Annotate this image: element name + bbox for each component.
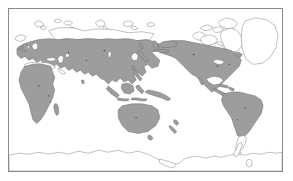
cuba-range [218,84,228,88]
range-speck-na-1 [193,54,195,56]
south-america-range [221,92,263,137]
aleutian-islands-range [154,50,169,53]
range-speck-asia-3 [68,52,69,53]
greenland-outline [241,18,278,64]
range-speck-sa-2 [237,119,238,120]
range-speck-asia-1 [104,50,106,52]
new-siberian-islands-outline [123,21,138,30]
africa-range [19,64,55,123]
range-speck-asia-2 [86,60,87,61]
persian-gulf-detail [59,68,66,74]
wrangel-island-outline [147,23,155,27]
africa-range-group [19,64,59,123]
range-speck-na-3 [229,64,230,65]
java-range [117,98,129,101]
sulawesi-range [136,85,144,94]
antarctica-group [9,142,282,171]
antarctic-interior-lake-outline [246,159,252,167]
new-zealand-south-range [169,126,177,134]
range-speck-sa-1 [245,107,246,108]
distribution-map-figure [0,0,293,181]
black-sea-detail [47,57,56,61]
range-speck-africa-1 [38,85,40,87]
iceland-outline [15,35,26,42]
range-speck-na-2 [217,66,218,67]
new-zealand-north-range [174,120,179,126]
sumatra-range [106,86,119,98]
lesser-sunda-range [131,98,147,101]
new-guinea-range [145,90,171,101]
world-map-svg [9,9,282,171]
franz-josef-outline [55,19,62,23]
range-speck-africa-2 [48,95,49,96]
tasmania-range [148,135,153,140]
range-speck-africa-3 [50,101,51,102]
map-frame [8,8,283,172]
sri-lanka-range [81,80,84,84]
ellesmere-island-outline [218,18,237,29]
hispaniola-range [228,87,234,91]
australia-range [118,104,160,134]
borneo-range [121,83,134,94]
range-speck-australia-1 [135,117,136,118]
svalbard-outline [35,21,47,30]
madagascar-range [54,104,59,116]
severnaya-zemlya-outline [95,20,108,30]
melville-island-outline [201,25,213,31]
alaska-range [158,41,178,48]
